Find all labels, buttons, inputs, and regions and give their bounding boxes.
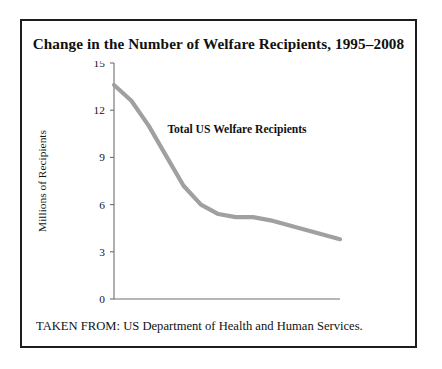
y-tick-label: 0: [99, 293, 105, 305]
figure-panel: Change in the Number of Welfare Recipien…: [20, 19, 417, 348]
chart-axes: [114, 63, 340, 299]
page-title: Change in the Number of Welfare Recipien…: [22, 35, 415, 53]
y-axis-title: Millions of Recipients: [36, 130, 48, 232]
y-tick-label: 12: [94, 104, 106, 116]
data-series-line: [114, 85, 340, 239]
y-tick-label: 6: [99, 199, 105, 211]
figure-source-note: TAKEN FROM: US Department of Health and …: [36, 319, 405, 334]
chart-series-group: [114, 85, 340, 239]
y-axis-tick-labels: 03691215: [94, 61, 114, 305]
y-tick-label: 3: [99, 246, 105, 258]
chart-container: 03691215 '95'97'99'01'03'05'07'08 Millio…: [22, 61, 415, 306]
y-tick-label: 9: [99, 151, 105, 163]
series-annotation-label: Total US Welfare Recipients: [167, 123, 307, 136]
y-tick-label: 15: [94, 61, 106, 69]
line-chart: 03691215 '95'97'99'01'03'05'07'08 Millio…: [22, 61, 415, 306]
axis-lines: [114, 63, 340, 299]
